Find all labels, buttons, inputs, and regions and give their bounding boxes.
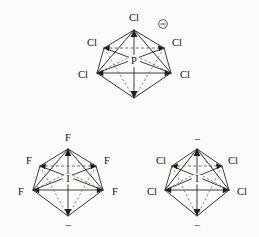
if6-label-back-left: F [26,155,32,166]
pcl6-charge-symbol [159,20,168,29]
pcl6-bond-top-backleft [104,30,134,48]
icl6-bond-top-backleft [172,149,197,166]
if6-edge-bl-bottom [40,166,68,216]
icl6-edge-bl-fl [165,166,172,190]
if6-label-front-left: F [18,186,24,197]
pcl6-label-front-right: Cl [180,69,190,80]
if6-bond-top-backleft [40,149,68,166]
icl6-charge-minus-above: − [194,133,200,145]
pcl6-center-atom: P [131,55,137,66]
if6-bond-center-fl [33,173,68,190]
if6-charge-minus-below: − [65,219,71,231]
icl6-label-front-left: Cl [147,186,157,197]
pcl6-bond-top-backright [134,30,164,48]
icl6-edge-br-bottom [197,166,222,216]
pcl6-label-front-left: Cl [78,69,88,80]
pcl6-label-back-left: Cl [87,37,97,48]
if6-label-front-right: F [112,186,118,197]
structure-icl6-anion: Cl Cl Cl Cl I − − [147,133,247,231]
icl6-label-back-left: Cl [156,155,166,166]
icl6-label-back-right: Cl [228,155,238,166]
pcl6-bond-center-fr [134,55,171,73]
pcl6-label-back-right: Cl [172,37,182,48]
icl6-bond-center-fl [165,173,197,190]
structure-if6-anion: F F F F F I − [18,132,118,230]
if6-bond-top-backright [68,149,96,166]
structure-pcl6-anion: Cl Cl Cl Cl Cl P [78,12,190,98]
icl6-label-front-right: Cl [237,186,247,197]
octahedral-structures-diagram: Cl Cl Cl Cl Cl P [0,0,259,237]
if6-center-atom: I [66,173,70,184]
icl6-edge-bl-bottom [172,166,197,216]
icl6-edge-br-fr [222,166,229,190]
if6-label-apex-top: F [65,132,71,143]
icl6-charge-minus-below: − [194,219,200,231]
pcl6-label-apex-top: Cl [129,12,139,23]
icl6-bond-center-fr [197,173,229,190]
if6-label-back-right: F [104,155,110,166]
icl6-bond-top-backright [197,149,222,166]
icl6-arrowhead-bottom [194,209,201,216]
figure-root: Cl Cl Cl Cl Cl P [0,0,259,237]
icl6-center-atom: I [195,173,199,184]
if6-edge-br-bottom [68,166,96,216]
pcl6-bond-center-fl [97,55,134,73]
if6-arrowhead-bottom [65,209,72,216]
if6-bond-center-fr [68,173,103,190]
